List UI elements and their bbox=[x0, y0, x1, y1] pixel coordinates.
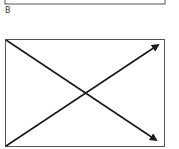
diagonal-down-arrow bbox=[6, 40, 156, 140]
panel-label: B bbox=[5, 7, 11, 15]
diagonal-up-arrow bbox=[6, 45, 158, 146]
diagram-canvas bbox=[0, 0, 179, 149]
top-box bbox=[5, 0, 165, 4]
